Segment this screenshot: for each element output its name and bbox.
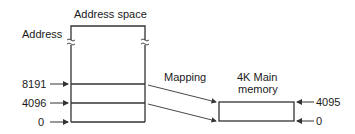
- diagram-canvas: [0, 0, 355, 134]
- tick-label-4096: 4096: [22, 97, 46, 109]
- break-marks: [67, 39, 149, 45]
- mapping-label: Mapping: [164, 71, 206, 83]
- tick-label-0-left: 0: [38, 116, 44, 128]
- tick-label-4095: 4095: [316, 96, 340, 108]
- right-tick-arrows: [297, 102, 314, 121]
- tick-label-0-right: 0: [316, 115, 322, 127]
- address-space-title: Address space: [74, 8, 147, 20]
- address-space-box: [71, 26, 145, 122]
- tick-label-8191: 8191: [22, 78, 46, 90]
- main-memory-title-line1: 4K Main: [237, 71, 277, 83]
- address-label: Address: [22, 28, 62, 40]
- mapping-arrows: [148, 85, 216, 121]
- left-tick-arrows: [50, 84, 68, 122]
- main-memory-title-line2: memory: [238, 83, 278, 95]
- main-memory-box: [219, 102, 294, 121]
